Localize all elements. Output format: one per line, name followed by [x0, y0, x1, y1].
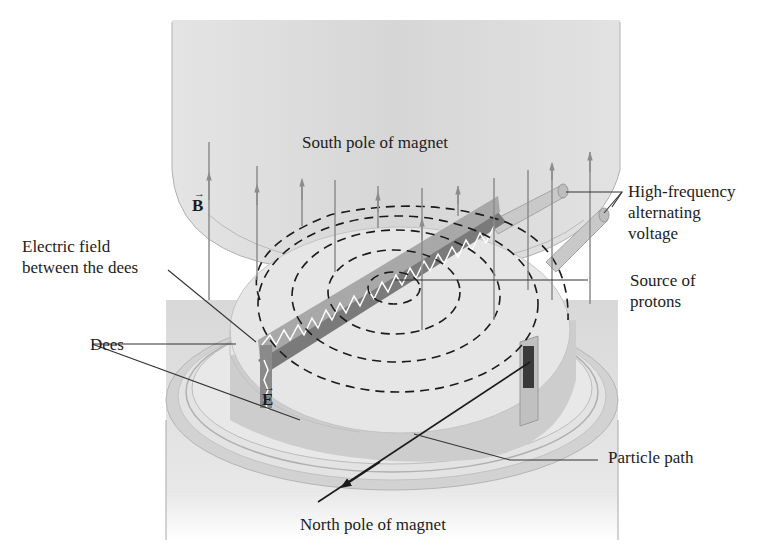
label-south-pole: South pole of magnet [302, 132, 448, 153]
label-hf-line-1: High-frequency [628, 181, 736, 202]
label-ef-line-1: Electric field [22, 236, 138, 257]
label-hf-voltage: High-frequency alternating voltage [628, 181, 736, 244]
label-electric-field: Electric field between the dees [22, 236, 138, 278]
label-source-of-protons: Source of protons [630, 270, 696, 312]
e-vector-label: → E [262, 390, 273, 410]
label-hf-line-2: alternating [628, 202, 736, 223]
label-ef-line-2: between the dees [22, 257, 138, 278]
label-source-line-1: Source of [630, 270, 696, 291]
label-dees: Dees [90, 334, 124, 355]
vector-arrow-icon: → [194, 187, 205, 199]
label-north-pole: North pole of magnet [300, 514, 446, 535]
label-source-line-2: protons [630, 291, 696, 312]
label-hf-line-3: voltage [628, 223, 736, 244]
b-vector-label: → B [192, 196, 203, 216]
label-particle-path: Particle path [608, 447, 693, 468]
vector-arrow-icon: → [264, 381, 275, 393]
